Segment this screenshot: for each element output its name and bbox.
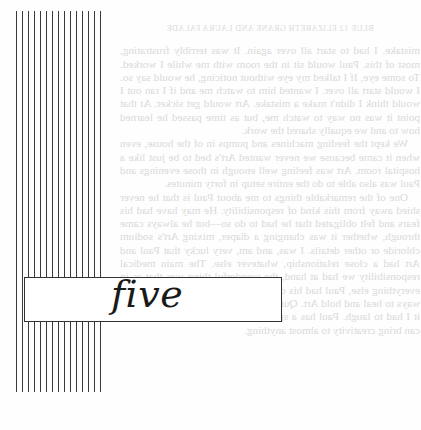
running-head: BLUE 12 ELIZABETH GRANE AND LAURA FALADE [120,22,420,35]
bleed-paragraph: We kept the feeding machines and pumps i… [120,137,420,190]
bleed-paragraph: mistake. I had to start all over again. … [120,44,420,137]
chapter-heading-box: five [24,277,282,322]
decorative-stripes [16,11,106,392]
book-page: BLUE 12 ELIZABETH GRANE AND LAURA FALADE… [0,0,421,430]
chapter-title: five [111,272,183,316]
